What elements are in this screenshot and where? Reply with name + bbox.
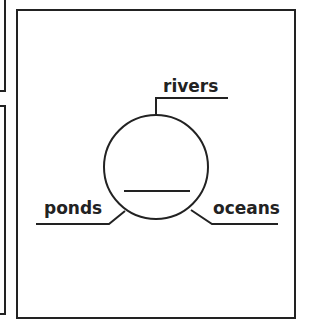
label-rivers: rivers xyxy=(163,76,218,96)
label-oceans: oceans xyxy=(213,198,280,218)
connector-rivers xyxy=(156,98,228,115)
center-circle xyxy=(104,115,208,219)
label-ponds: ponds xyxy=(44,198,102,218)
